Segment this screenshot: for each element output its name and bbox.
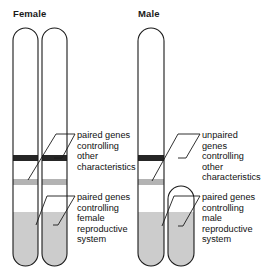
label-male-other-characteristics: unpaired genes controlling other charact… <box>202 130 261 183</box>
male-x-dark-band <box>137 155 165 161</box>
female-right-reproductive-region <box>41 212 68 268</box>
female-left-reproductive-region <box>12 212 39 268</box>
male-x-reproductive-region <box>137 212 165 268</box>
female-left-gray-band <box>12 179 39 185</box>
male-y-chromosome <box>167 185 195 270</box>
sex-chromosome-diagram: Female Male <box>0 0 268 274</box>
female-right-gray-band <box>41 179 68 185</box>
male-x-chromosome <box>137 27 165 268</box>
female-left-dark-band <box>12 155 39 161</box>
female-x-chromosome-left <box>12 27 39 268</box>
female-x-chromosome-right <box>41 27 68 268</box>
label-female-reproductive-system: paired genes controlling female reproduc… <box>77 192 130 245</box>
label-male-reproductive-system: paired genes controlling male reproducti… <box>202 192 255 245</box>
label-female-other-characteristics: paired genes controlling other character… <box>77 130 136 172</box>
male-x-gray-band <box>137 179 165 185</box>
